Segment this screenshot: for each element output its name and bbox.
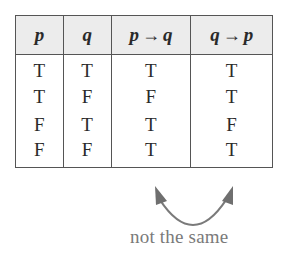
annotation-label: not the same xyxy=(130,226,228,248)
curved-double-arrow-icon xyxy=(0,0,285,259)
